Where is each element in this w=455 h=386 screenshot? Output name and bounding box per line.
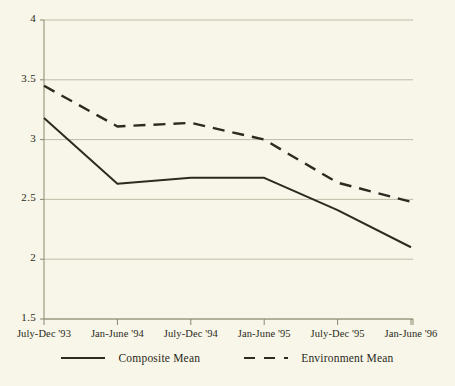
y-axis-tick-label: 1.5 [2, 311, 36, 323]
legend-item-composite-mean: Composite Mean [61, 352, 200, 364]
legend-swatch-dashed-line-icon [244, 353, 288, 363]
line-chart: 1.522.533.54 July-Dec '93Jan-June '94Jul… [0, 0, 455, 386]
y-axis-tick-label: 2.5 [2, 191, 36, 203]
x-axis-tick-label: Jan-June '96 [385, 328, 438, 339]
legend-label-environment-mean: Environment Mean [301, 352, 393, 364]
legend-item-environment-mean: Environment Mean [244, 352, 393, 364]
series-line-composite-mean [44, 118, 411, 247]
x-axis-tick-label: Jan-June '94 [91, 328, 144, 339]
x-axis-tick-label: July-Dec '93 [17, 328, 71, 339]
series-lines [44, 86, 411, 247]
x-axis-tick-label: July-Dec '94 [164, 328, 218, 339]
y-axis-tick-label: 2 [2, 251, 36, 263]
y-axis-tick-label: 4 [2, 12, 36, 24]
x-axis-ticks [44, 319, 413, 325]
legend-swatch-solid-line-icon [61, 353, 105, 363]
legend-label-composite-mean: Composite Mean [118, 352, 200, 364]
y-axis-tick-label: 3.5 [2, 72, 36, 84]
x-axis-tick-label: July-Dec '95 [311, 328, 365, 339]
gridlines [44, 20, 413, 319]
y-axis-ticks [40, 20, 44, 319]
axis-lines [44, 20, 413, 319]
series-line-environment-mean [44, 86, 411, 202]
chart-legend: Composite Mean Environment Mean [0, 352, 455, 364]
x-axis-tick-label: Jan-June '95 [238, 328, 291, 339]
y-axis-tick-label: 3 [2, 132, 36, 144]
